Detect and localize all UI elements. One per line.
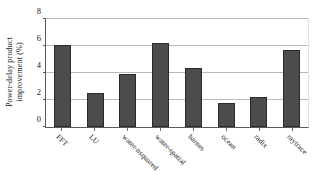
bar-slot-raytrace	[275, 19, 308, 127]
x-label-slot-FFT: FFT	[45, 131, 78, 183]
y-tick-label-8: 8	[37, 6, 41, 15]
x-label-slot-LU: LU	[78, 131, 111, 183]
x-label-slot-raytrace: raytrace	[276, 131, 309, 183]
bar-ocean[interactable]	[218, 103, 235, 127]
x-tick-label-raytrace: raytrace	[285, 133, 308, 156]
bar-slot-barnes	[177, 19, 210, 127]
bar-FFT[interactable]	[54, 45, 71, 127]
bar-slot-FFT	[46, 19, 79, 127]
bar-slot-water-nsquared	[112, 19, 145, 127]
x-tick-label-FFT: FFT	[54, 133, 69, 148]
x-tick-label-radix: radix	[252, 133, 269, 150]
y-tick-label-2: 2	[37, 87, 41, 96]
x-label-slot-ocean: ocean	[210, 131, 243, 183]
y-axis-title: Power-delay product improvement (%)	[2, 16, 28, 128]
bar-LU[interactable]	[87, 93, 104, 127]
bar-water-spatial[interactable]	[152, 43, 169, 127]
bar-slot-LU	[79, 19, 112, 127]
bar-barnes[interactable]	[185, 68, 202, 127]
x-axis-labels: FFTLUwater-nsquaredwater-spatialbarnesoc…	[45, 131, 309, 183]
bar-raytrace[interactable]	[283, 50, 300, 127]
x-tick-label-ocean: ocean	[219, 133, 237, 151]
x-label-slot-radix: radix	[243, 131, 276, 183]
x-tick-label-LU: LU	[87, 133, 100, 146]
bar-series	[46, 19, 308, 127]
bar-water-nsquared[interactable]	[119, 74, 136, 127]
y-axis-title-line1: Power-delay product	[5, 37, 14, 107]
bar-radix[interactable]	[250, 97, 267, 127]
bar-slot-water-spatial	[144, 19, 177, 127]
y-tick-label-0: 0	[37, 114, 41, 123]
y-axis-title-line2: improvement (%)	[15, 37, 25, 107]
bar-slot-ocean	[210, 19, 243, 127]
x-label-slot-barnes: barnes	[177, 131, 210, 183]
y-tick-label-6: 6	[37, 33, 41, 42]
x-tick-label-barnes: barnes	[186, 133, 206, 153]
x-label-slot-water-spatial: water-spatial	[144, 131, 177, 183]
y-tick-label-4: 4	[37, 60, 41, 69]
plot-area: 02468	[45, 18, 309, 128]
x-label-slot-water-nsquared: water-nsquared	[111, 131, 144, 183]
bar-slot-radix	[243, 19, 276, 127]
bar-chart-figure: Power-delay product improvement (%) 0246…	[0, 0, 317, 185]
